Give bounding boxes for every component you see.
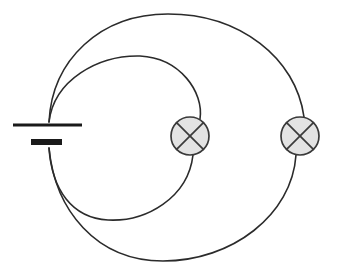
lamp-inner-loop: [171, 117, 209, 155]
circuit-diagram-canvas: [0, 0, 346, 272]
inner-loop-top-wire: [49, 56, 200, 122]
lamp-outer-loop: [281, 117, 319, 155]
outer-loop-bottom-wire: [49, 148, 296, 261]
circuit-diagram-svg: [0, 0, 346, 272]
inner-loop-bottom-wire: [49, 148, 193, 220]
battery-symbol: [13, 125, 82, 142]
